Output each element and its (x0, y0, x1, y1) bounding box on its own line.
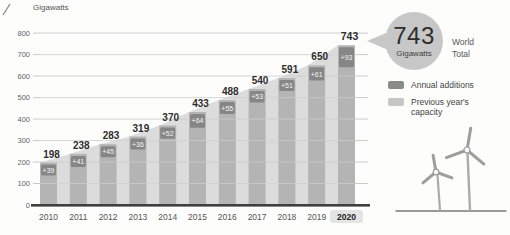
y-tick-label: 200 (17, 158, 30, 167)
world-total-callout: 743 Gigawatts (385, 12, 443, 70)
y-tick-label: 100 (17, 179, 30, 188)
plot-area: 8007006005004003002001000+39198+41238+45… (17, 29, 370, 223)
bar-total-label: 743 (341, 30, 359, 42)
bar-total-label: 370 (162, 112, 179, 123)
callout-value: 743 (393, 24, 435, 48)
bar-total-label: 540 (252, 75, 269, 86)
capacity-bar (219, 100, 236, 205)
additions-badge-label: +61 (311, 71, 323, 78)
x-tick-label: 2015 (188, 212, 207, 222)
additions-badge-label: +55 (221, 105, 233, 112)
x-tick-label: 2011 (69, 212, 88, 222)
legend: Annual additions Previous year's capacit… (388, 80, 483, 118)
y-tick-label: 0 (26, 201, 30, 210)
legend-label-annual-additions: Annual additions (411, 80, 483, 90)
legend-swatch-annual-additions (388, 81, 404, 89)
y-tick-label: 500 (17, 93, 30, 102)
legend-swatch-previous-capacity (388, 98, 404, 106)
additions-badge-label: +39 (43, 167, 55, 174)
additions-badge-label: +41 (72, 158, 84, 165)
capacity-bar (338, 45, 355, 205)
y-tick-label: 600 (17, 72, 30, 81)
bar-total-label: 433 (192, 98, 209, 109)
additions-badge-label: +52 (162, 130, 174, 137)
bar-total-label: 319 (133, 123, 150, 134)
wind-turbines-icon (396, 128, 506, 211)
callout-tail (367, 33, 386, 49)
wind-turbine-small (423, 155, 452, 210)
bar-total-label: 650 (311, 51, 328, 62)
world-total-label: World Total (452, 36, 490, 61)
y-tick-label: 700 (17, 50, 30, 59)
wind-turbine-large (446, 128, 484, 210)
x-tick-label: 2016 (218, 212, 237, 222)
x-tick-label: 2014 (158, 212, 177, 222)
capacity-bar (278, 78, 295, 205)
callout-unit: Gigawatts (396, 49, 432, 58)
y-tick-label: 400 (17, 115, 30, 124)
x-tick-label: 2017 (248, 212, 267, 222)
additions-badge-label: +36 (132, 141, 144, 148)
bar-total-label: 238 (73, 140, 90, 151)
capacity-bar (249, 89, 266, 205)
additions-badge-label: +45 (102, 148, 114, 155)
figure-canvas: Gigawatts 8007006005004003002001000+3919… (0, 0, 510, 235)
x-tick-label: 2012 (99, 212, 118, 222)
legend-item-annual-additions: Annual additions (388, 80, 483, 90)
legend-item-previous-capacity: Previous year's capacity (388, 97, 483, 117)
legend-label-previous-capacity: Previous year's capacity (411, 97, 483, 117)
x-tick-label: 2010 (39, 212, 58, 222)
x-axis-baseline (31, 204, 370, 207)
bar-total-label: 198 (43, 149, 60, 160)
page-edge-mark (3, 4, 10, 15)
additions-badge-label: +51 (281, 82, 293, 89)
y-tick-label: 300 (17, 136, 30, 145)
x-tick-label: 2019 (307, 212, 326, 222)
x-tick-label: 2020 (337, 212, 356, 222)
bar-total-label: 283 (103, 130, 120, 141)
additions-badge-label: +93 (341, 54, 353, 61)
x-tick-label: 2018 (277, 212, 296, 222)
additions-badge-label: +64 (192, 117, 204, 124)
y-tick-label: 800 (17, 29, 30, 38)
bar-total-label: 488 (222, 86, 239, 97)
additions-badge-label: +53 (251, 93, 263, 100)
bar-total-label: 591 (282, 64, 299, 75)
capacity-bar (308, 65, 325, 205)
x-tick-label: 2013 (128, 212, 147, 222)
